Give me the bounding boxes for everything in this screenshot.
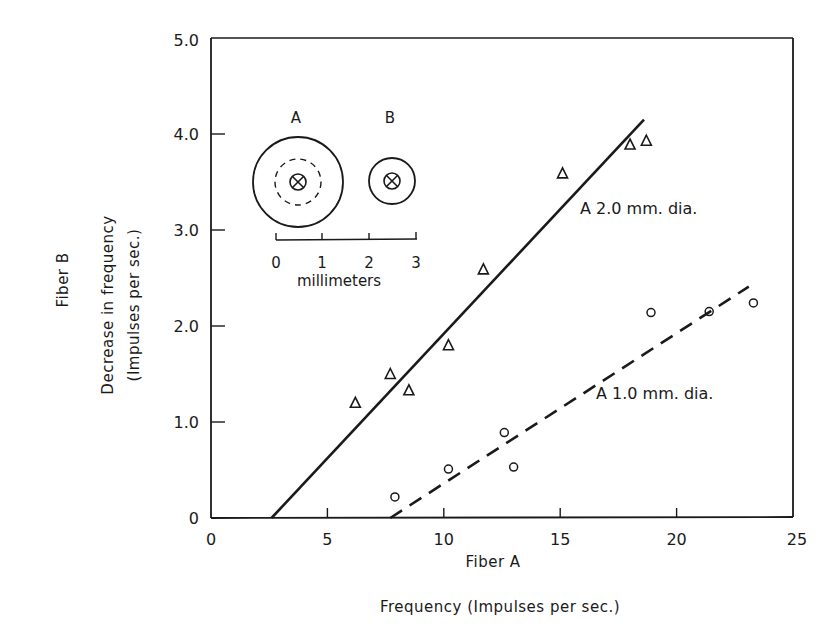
x-tick-label: 5	[322, 530, 332, 549]
x-axis	[211, 517, 793, 518]
y-tick-label: 2.0	[174, 317, 199, 336]
y-tick-label: 5.0	[174, 31, 199, 50]
triangle-marker	[385, 369, 395, 379]
triangle-marker	[404, 385, 414, 395]
x-axis-title-inner: Fiber A	[465, 553, 520, 571]
inset-scale-unit: millimeters	[297, 272, 381, 290]
inset-scale-tick-2: 2	[364, 254, 374, 272]
inset-scale-bar	[276, 232, 417, 240]
y-ticks: 01.02.03.04.05.0	[174, 31, 225, 528]
fit-line-solid	[272, 120, 644, 518]
x-tick-label: 25	[787, 530, 807, 549]
circle-marker	[647, 309, 655, 317]
circle-marker	[749, 299, 757, 307]
series-label-2mm: A 2.0 mm. dia.	[580, 199, 697, 218]
triangle-marker	[350, 397, 360, 407]
triangle-marker	[443, 340, 453, 350]
x-ticks: 0510152025	[206, 508, 807, 549]
circle-marker	[444, 465, 452, 473]
x-tick-label: 0	[206, 530, 216, 549]
x-tick-label: 15	[550, 530, 570, 549]
triangle-marker	[625, 139, 635, 149]
x-tick-label: 20	[666, 530, 686, 549]
y-axis-title-inner-2: (Impulses per sec.)	[125, 229, 143, 382]
fiber-a-center-icon	[290, 174, 306, 190]
inset-scale-tick-3: 3	[411, 254, 421, 272]
circle-marker	[500, 429, 508, 437]
inset-scale-tick-0: 0	[271, 254, 281, 272]
triangle-marker	[478, 264, 488, 274]
y-tick-label: 3.0	[174, 221, 199, 240]
inset-diagram: A B 0 1 2 3 millimeters	[253, 109, 421, 290]
circle-marker	[391, 493, 399, 501]
triangle-marker	[558, 168, 568, 178]
y-tick-label: 4.0	[174, 125, 199, 144]
chart: 0510152025 01.02.03.04.05.0 A 2.0 mm. di…	[0, 0, 839, 644]
x-axis-title-outer: Frequency (Impulses per sec.)	[380, 598, 620, 616]
inset-label-b: B	[385, 109, 395, 127]
y-tick-label: 1.0	[174, 413, 199, 432]
triangle-marker	[641, 135, 651, 145]
inset-label-a: A	[291, 109, 302, 127]
y-axis-title-outer: Fiber B	[54, 252, 72, 307]
markers	[350, 135, 757, 501]
x-tick-label: 10	[434, 530, 454, 549]
inset-scale-tick-1: 1	[317, 254, 327, 272]
circle-marker	[510, 463, 518, 471]
y-tick-label: 0	[189, 509, 199, 528]
fiber-b-center-icon	[384, 173, 400, 189]
series-label-1mm: A 1.0 mm. dia.	[596, 384, 713, 403]
y-axis-title-inner-1: Decrease in frequency	[99, 215, 117, 394]
